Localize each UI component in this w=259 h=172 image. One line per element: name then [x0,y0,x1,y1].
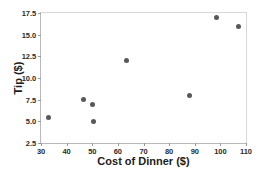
y-tick-label: 5.0 [26,117,36,126]
x-tick-mark [92,143,93,146]
x-tick-mark [169,143,170,146]
plot-area: 2.55.07.510.012.515.017.5 30405060708090… [40,12,247,144]
x-axis-title: Cost of Dinner ($) [40,155,247,167]
data-point [81,97,86,102]
y-axis-title: Tip ($) [12,62,24,95]
y-tick-label: 17.5 [22,9,36,18]
x-tick-mark [41,143,42,146]
x-tick-mark [220,143,221,146]
data-point [46,115,51,120]
x-tick-mark [67,143,68,146]
x-tick-mark [195,143,196,146]
x-tick-mark [118,143,119,146]
y-tick-label: 15.0 [22,30,36,39]
y-tick-label: 2.5 [26,139,36,148]
y-tick-label: 7.5 [26,95,36,104]
data-point [124,58,129,63]
data-points-layer [41,13,246,143]
y-tick-label: 12.5 [22,52,36,61]
scatter-chart: 2.55.07.510.012.515.017.5 30405060708090… [0,0,259,172]
data-point [214,15,219,20]
data-point [187,93,192,98]
x-tick-mark [144,143,145,146]
data-point [91,119,96,124]
data-point [90,102,95,107]
data-point [236,24,241,29]
x-tick-mark [246,143,247,146]
